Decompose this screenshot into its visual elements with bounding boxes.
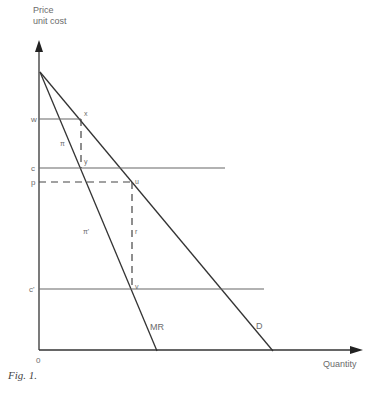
point-x-label: x	[84, 110, 88, 117]
demand-curve-label: D	[256, 321, 263, 331]
point-y-label: y	[84, 158, 88, 166]
profit-pi-label: π	[60, 140, 65, 147]
marginal-revenue-curve	[40, 72, 157, 351]
profit-pi-prime-label: π'	[83, 228, 89, 235]
c-label: c	[31, 164, 35, 173]
monopoly-pricing-diagram: Price unit cost Quantity 0 w c p c' x y …	[0, 0, 383, 393]
p-label: p	[31, 178, 36, 187]
point-u-label: u	[135, 178, 139, 185]
w-label: w	[30, 115, 37, 124]
origin-label: 0	[36, 356, 41, 365]
figure-caption: Fig. 1.	[7, 369, 37, 381]
y-axis-arrow-icon	[35, 40, 43, 52]
r-label: r	[135, 228, 138, 235]
x-axis-label: Quantity	[323, 359, 357, 369]
y-axis-label-price: Price	[33, 5, 54, 15]
x-axis-arrow-icon	[350, 346, 363, 354]
point-v-label: v	[135, 283, 139, 290]
c-prime-label: c'	[29, 285, 35, 294]
demand-curve	[40, 72, 273, 351]
mr-curve-label: MR	[150, 322, 164, 332]
y-axis-label-unit-cost: unit cost	[33, 16, 67, 26]
